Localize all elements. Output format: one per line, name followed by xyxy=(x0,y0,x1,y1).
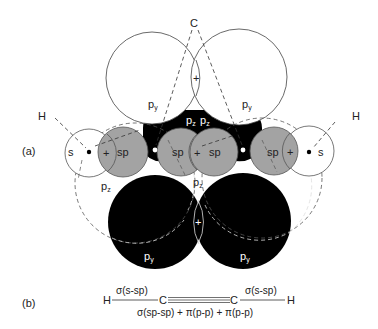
py-orbital-top-right xyxy=(191,29,287,125)
carbon-label: C xyxy=(190,17,198,29)
plus-sign-left: + xyxy=(103,147,109,159)
hydrogen-nucleus-right xyxy=(307,150,311,154)
carbon-nucleus-left xyxy=(153,148,158,153)
hydrogen-nucleus-left xyxy=(87,150,91,154)
pz-label-lower-center: pz xyxy=(193,176,203,189)
hydrogen-label-right: H xyxy=(352,110,360,122)
sp-label-center-left: sp xyxy=(172,146,184,158)
carbon-left-b: C xyxy=(159,294,167,306)
sp-label-right: sp xyxy=(267,146,279,158)
plus-sign-center: + xyxy=(194,147,200,159)
s-label-left: s xyxy=(68,146,74,158)
triple-bond xyxy=(168,298,230,303)
sp-label-center-right: sp xyxy=(209,146,221,158)
py-orbital-top-left xyxy=(106,32,198,124)
plus-sign-right: + xyxy=(287,146,293,158)
py-orbital-bottom-left xyxy=(108,175,202,269)
carbon-nucleus-right xyxy=(241,148,246,153)
sigma-s-sp-left: σ(s-sp) xyxy=(116,285,148,296)
hydrogen-left-b: H xyxy=(103,294,111,306)
sigma-s-sp-right: σ(s-sp) xyxy=(245,285,277,296)
triple-bond-composition: σ(sp-sp) + π(p-p) + π(p-p) xyxy=(137,307,253,318)
pz-label-lower-left: pz xyxy=(101,180,111,193)
hydrogen-label-left: H xyxy=(38,110,46,122)
panel-a-label: (a) xyxy=(22,145,35,157)
acetylene-orbital-diagram: + + + + + C H H (a) py py pz pz s sp sp … xyxy=(0,0,378,329)
carbon-right-b: C xyxy=(230,294,238,306)
panel-b-label: (b) xyxy=(22,297,35,309)
plus-sign-top: + xyxy=(193,72,199,84)
s-label-right: s xyxy=(318,146,324,158)
hydrogen-right-b: H xyxy=(287,294,295,306)
plus-sign-bottom: + xyxy=(195,216,201,228)
sp-label-left: sp xyxy=(117,146,129,158)
